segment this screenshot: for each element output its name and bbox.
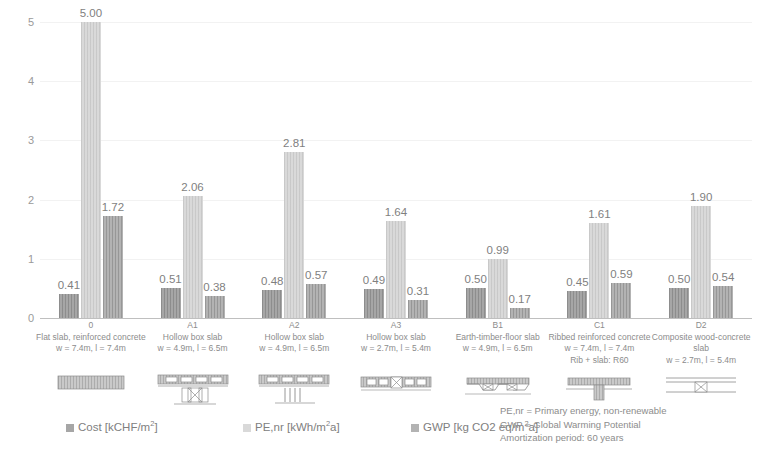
category-name-cont: slab [631,343,766,355]
legend-item-pe[interactable]: PE,nr [kWh/m2a] [243,421,340,434]
bar-c1-gwp [611,283,631,318]
legend-swatch-icon [243,424,251,432]
bar-0-cost [59,294,79,318]
legend-item-cost[interactable]: Cost [kCHF/m2] [66,421,158,434]
bar-d2-cost [669,288,689,318]
category-code: D2 [631,320,766,332]
plot-area: 0123450.415.001.720.512.060.380.482.810.… [40,22,752,318]
bar-b1-cost [466,288,486,318]
bar-value-label: 1.64 [376,206,416,218]
bar-b1-gwp [510,308,530,318]
bar-d2-pe [691,206,711,318]
bar-value-label: 1.90 [681,191,721,203]
footnote-line: PE,nr = Primary energy, non-renewable [500,404,766,418]
bar-a1-gwp [205,296,225,318]
bar-group-a1: 0.512.060.38 [142,22,244,318]
y-axis-tick-label: 3 [12,135,34,146]
y-axis-tick-label: 2 [12,195,34,206]
footnotes: PE,nr = Primary energy, non-renewableGWP… [500,404,766,445]
bar-c1-cost [567,291,587,318]
bar-value-label: 2.81 [274,137,314,149]
bar-0-pe [81,22,101,318]
footnote-line: GWP = Global Warming Potential [500,418,766,432]
bar-b1-pe [488,259,508,318]
bar-a2-gwp [306,284,326,318]
bar-a3-cost [364,289,384,318]
bar-a1-cost [161,288,181,318]
bar-value-label: 2.06 [173,181,213,193]
bar-value-label: 0.54 [703,271,743,283]
bar-a1-pe [183,196,203,318]
bar-group-c1: 0.451.610.59 [549,22,651,318]
bar-0-gwp [103,216,123,318]
y-axis-tick-label: 5 [12,17,34,28]
y-axis-tick-label: 4 [12,76,34,87]
bar-group-d2: 0.501.900.54 [650,22,752,318]
bar-a2-cost [262,290,282,318]
bar-chart: 0123450.415.001.720.512.060.380.482.810.… [0,0,766,467]
bar-value-label: 0.31 [398,285,438,297]
legend-label: Cost [kCHF/m2] [78,421,158,434]
bar-value-label: 0.59 [601,268,641,280]
hollow-box-slab-narrow-diagram [357,370,435,410]
category-label-d2: D2Composite wood-concreteslabw = 2.7m, l… [631,320,766,366]
y-axis-tick-label: 1 [12,254,34,265]
bar-value-label: 0.17 [500,293,540,305]
bar-a3-gwp [408,300,428,318]
x-axis-line [40,318,752,319]
bar-value-label: 1.61 [579,208,619,220]
bar-group-b1: 0.500.990.17 [447,22,549,318]
footnote-line: Amortization period: 60 years [500,431,766,445]
bar-group-0: 0.415.001.72 [40,22,142,318]
bar-group-a3: 0.491.640.31 [345,22,447,318]
bar-a2-pe [284,152,304,318]
bar-value-label: 5.00 [71,7,111,19]
legend-label: PE,nr [kWh/m2a] [255,421,340,434]
legend-swatch-icon [411,424,419,432]
category-name: Composite wood-concrete [631,332,766,344]
bar-d2-gwp [713,286,733,318]
bar-group-a2: 0.482.810.57 [243,22,345,318]
category-axis-labels: 0Flat slab, reinforced concretew = 7.4m,… [40,320,752,376]
bar-value-label: 0.57 [296,269,336,281]
bar-value-label: 0.99 [478,244,518,256]
flat-slab-reinforced-concrete-diagram [52,370,130,410]
bar-a3-pe [386,221,406,318]
category-dimensions: w = 2.7m, l = 5.4m [631,355,766,367]
bar-value-label: 1.72 [93,201,133,213]
bar-value-label: 0.38 [195,281,235,293]
hollow-box-slab-posts-support-diagram [255,370,333,410]
hollow-box-slab-column-support-diagram [154,370,232,410]
legend-swatch-icon [66,424,74,432]
